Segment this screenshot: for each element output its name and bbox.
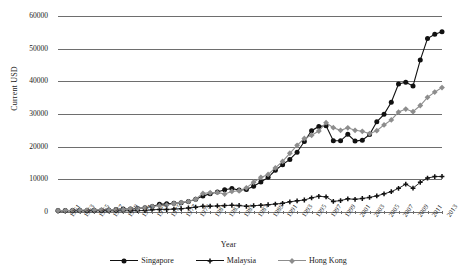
data-point (425, 36, 430, 41)
x-tick-mark (442, 211, 443, 214)
y-tick-label: 20000 (0, 143, 48, 151)
x-tick-mark (167, 211, 168, 214)
data-point (207, 258, 212, 263)
legend-swatch (110, 256, 138, 265)
y-tick-label: 50000 (0, 45, 48, 53)
x-tick-mark (283, 211, 284, 214)
y-tick-label: 40000 (0, 77, 48, 85)
data-point (338, 138, 343, 143)
data-point (418, 58, 423, 63)
data-point (338, 198, 343, 203)
data-point (411, 83, 416, 88)
data-point (374, 119, 379, 124)
data-point (382, 191, 387, 196)
data-point (360, 138, 365, 143)
x-tick-mark (370, 211, 371, 214)
data-point (309, 195, 314, 200)
legend-label: Singapore (141, 256, 173, 265)
legend-swatch (196, 256, 224, 265)
x-tick-mark (138, 211, 139, 214)
x-tick-mark (297, 211, 298, 214)
data-point (352, 127, 358, 133)
x-tick-mark (312, 211, 313, 214)
data-point (396, 81, 401, 86)
data-point (359, 128, 365, 134)
data-point (324, 194, 329, 199)
legend-item-singapore[interactable]: Singapore (110, 256, 173, 265)
legend-swatch (278, 256, 306, 265)
data-point (222, 191, 228, 197)
data-point (295, 198, 300, 203)
data-point (289, 258, 295, 264)
x-tick-mark (65, 211, 66, 214)
legend-item-hong-kong[interactable]: Hong Kong (278, 256, 347, 265)
data-point (389, 189, 394, 194)
data-point (440, 174, 445, 179)
x-tick-mark (109, 211, 110, 214)
data-point (122, 258, 127, 263)
data-point (439, 85, 445, 91)
x-tick-mark (123, 211, 124, 214)
x-tick-mark (80, 211, 81, 214)
data-point (432, 174, 437, 179)
data-point (338, 127, 344, 133)
x-tick-mark (225, 211, 226, 214)
x-tick-mark (268, 211, 269, 214)
y-tick-label: 60000 (0, 12, 48, 20)
x-tick-mark (210, 211, 211, 214)
y-tick-label: 0 (0, 208, 48, 216)
data-point (425, 176, 430, 181)
series-layer (58, 16, 442, 212)
data-point (302, 198, 307, 203)
data-point (287, 157, 292, 162)
data-point (353, 139, 358, 144)
x-tick-mark (254, 211, 255, 214)
data-point (403, 182, 408, 187)
legend-label: Malaysia (227, 256, 256, 265)
x-tick-mark (152, 211, 153, 214)
x-tick-mark (399, 211, 400, 214)
data-point (345, 196, 350, 201)
legend-item-malaysia[interactable]: Malaysia (196, 256, 256, 265)
legend-label: Hong Kong (309, 256, 347, 265)
x-tick-mark (384, 211, 385, 214)
data-point (345, 125, 351, 131)
x-tick-mark (239, 211, 240, 214)
data-point (374, 193, 379, 198)
data-point (353, 197, 358, 202)
y-tick-label: 10000 (0, 175, 48, 183)
chart-legend: SingaporeMalaysiaHong Kong (0, 256, 457, 265)
data-point (382, 112, 387, 117)
data-point (331, 138, 336, 143)
data-point (432, 32, 437, 37)
x-tick-mark (94, 211, 95, 214)
x-tick-mark (196, 211, 197, 214)
data-point (214, 190, 220, 196)
data-point (295, 150, 300, 155)
x-tick-label: 2013 (445, 203, 458, 218)
data-point (389, 100, 394, 105)
y-axis-ticks: 0100002000030000400005000060000 (0, 16, 52, 212)
series-line (58, 32, 442, 211)
x-axis-title: Year (0, 240, 457, 249)
data-point (396, 186, 401, 191)
y-axis-title: Current USD (10, 39, 19, 139)
y-tick-label: 30000 (0, 110, 48, 118)
data-point (440, 29, 445, 34)
x-tick-mark (413, 211, 414, 214)
plot-area (58, 16, 442, 212)
x-tick-mark (341, 211, 342, 214)
x-tick-mark (181, 211, 182, 214)
x-tick-mark (355, 211, 356, 214)
data-point (403, 106, 409, 112)
legend-marker-circle-icon (121, 258, 127, 264)
data-point (345, 132, 350, 137)
data-point (360, 196, 365, 201)
data-point (403, 80, 408, 85)
x-tick-mark (326, 211, 327, 214)
data-point (316, 194, 321, 199)
legend-marker-diamond-icon (289, 258, 295, 264)
legend-marker-plus-icon (207, 258, 213, 264)
data-point (367, 195, 372, 200)
